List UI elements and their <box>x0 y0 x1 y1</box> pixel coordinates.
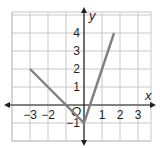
y-tick-label: 3 <box>73 44 80 58</box>
x-tick-label: 3 <box>135 108 142 122</box>
x-tick-label: −2 <box>41 108 55 122</box>
x-tick-label: 2 <box>117 108 124 122</box>
x-tick-label: −3 <box>23 108 37 122</box>
y-axis-arrow-up-icon <box>81 7 87 13</box>
y-tick-label: 4 <box>73 26 80 40</box>
graph: xyO−3−2123−11234 <box>0 0 160 148</box>
x-axis-arrow-left-icon <box>4 102 10 108</box>
x-axis-label: x <box>144 88 152 103</box>
y-tick-label: 2 <box>73 62 80 76</box>
y-axis-arrow-down-icon <box>81 140 87 146</box>
y-tick-label: 1 <box>73 80 80 94</box>
x-tick-label: 1 <box>99 108 106 122</box>
